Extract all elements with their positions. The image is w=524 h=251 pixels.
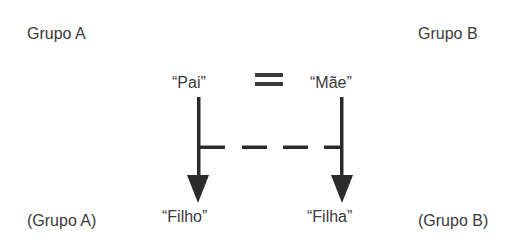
left-descent-arrow-icon (187, 97, 209, 203)
dashed-link-icon (200, 146, 341, 150)
kinship-diagram (0, 0, 524, 251)
right-descent-arrow-icon (331, 97, 353, 203)
equals-icon (255, 73, 283, 86)
